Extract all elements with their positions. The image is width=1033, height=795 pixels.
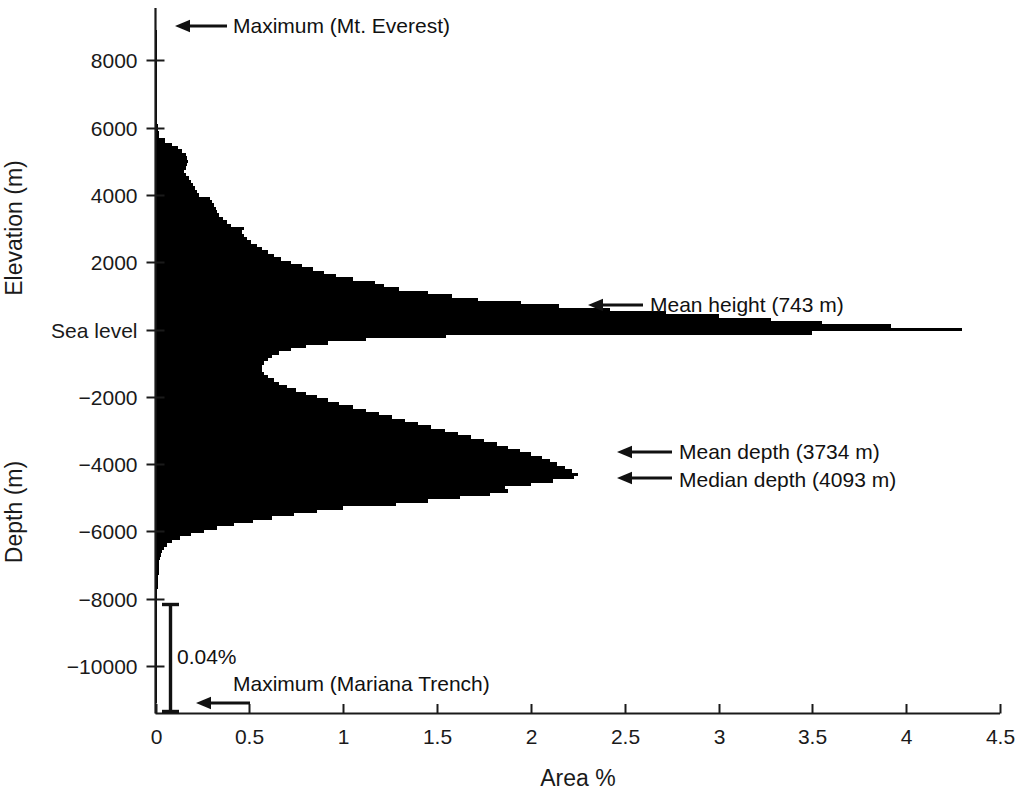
histogram-bar <box>156 395 317 398</box>
histogram-bar <box>156 281 376 284</box>
x-axis-tick-label: 2 <box>526 725 538 748</box>
histogram-bar <box>156 244 257 247</box>
histogram-bar <box>156 250 269 253</box>
histogram-bar <box>156 405 353 408</box>
histogram-bar <box>156 503 396 506</box>
x-axis-label: Area % <box>540 765 615 791</box>
histogram-bar <box>156 473 578 476</box>
histogram-bar <box>156 267 314 270</box>
histogram-bar <box>156 429 445 432</box>
histogram-bar <box>156 224 231 227</box>
annotation-label: Mean depth (3734 m) <box>679 440 880 463</box>
histogram-bar <box>156 227 244 230</box>
histogram-bar <box>156 361 265 364</box>
histogram-bar <box>156 372 265 375</box>
y-axis-tick-label: −6000 <box>79 520 138 543</box>
y-axis-tick-label: 2000 <box>91 251 138 274</box>
histogram-bar <box>156 456 543 459</box>
y-axis-tick-label: −2000 <box>79 386 138 409</box>
histogram-bar <box>156 425 432 428</box>
histogram-bar <box>156 160 189 163</box>
histogram-bar <box>156 341 329 344</box>
y-axis-tick-label: 6000 <box>91 117 138 140</box>
histogram-bar <box>156 166 186 169</box>
x-axis-tick-label: 0.5 <box>235 725 264 748</box>
histogram-bar <box>156 493 490 496</box>
annotation-label: Maximum (Mt. Everest) <box>233 14 450 37</box>
histogram-bar <box>156 220 227 223</box>
histogram-bar <box>156 358 269 361</box>
histogram-bar <box>156 183 194 186</box>
histogram-bar <box>156 190 197 193</box>
scale-bar-label: 0.04% <box>177 645 237 668</box>
histogram-bar <box>156 520 254 523</box>
histogram-bar <box>156 247 263 250</box>
x-axis-tick-label: 1.5 <box>423 725 452 748</box>
histogram-bar <box>156 422 419 425</box>
y-axis-tick-label: 8000 <box>91 49 138 72</box>
histogram-bar <box>156 146 179 149</box>
histogram-bar <box>156 321 822 324</box>
annotation-label: Maximum (Mariana Trench) <box>233 672 490 695</box>
histogram-bar <box>156 240 252 243</box>
histogram-bar <box>156 203 214 206</box>
histogram-bar <box>156 200 212 203</box>
x-axis-tick-label: 4 <box>901 725 913 748</box>
histogram-bar <box>156 375 269 378</box>
histogram-bar <box>156 207 216 210</box>
histogram-bar <box>156 388 297 391</box>
histogram-bar <box>156 489 509 492</box>
histogram-bar <box>156 385 287 388</box>
histogram-bar <box>156 439 484 442</box>
histogram-bar <box>156 149 182 152</box>
histogram-bar <box>156 513 295 516</box>
histogram-bar <box>156 143 173 146</box>
histogram-bar <box>156 304 559 307</box>
histogram-bar <box>156 217 224 220</box>
histogram-bar <box>156 257 282 260</box>
histogram-bar <box>156 462 558 465</box>
histogram-bar <box>156 180 192 183</box>
histogram-bar <box>156 271 325 274</box>
histogram-bar <box>156 170 184 173</box>
histogram-bar <box>156 533 192 536</box>
histogram-bar <box>156 324 892 327</box>
histogram-bar <box>156 479 554 482</box>
histogram-bar <box>156 156 188 159</box>
histogram-bar <box>156 516 272 519</box>
histogram-bar <box>156 466 565 469</box>
histogram-bar <box>156 277 353 280</box>
histogram-bar <box>156 365 263 368</box>
histogram-bar <box>156 543 167 546</box>
histogram-bar <box>156 442 498 445</box>
histogram-bar <box>156 355 272 358</box>
histogram-bar <box>156 449 520 452</box>
x-axis-tick-label: 4.5 <box>986 725 1015 748</box>
y-axis-label-depth: Depth (m) <box>1 461 27 563</box>
histogram-bar <box>156 382 280 385</box>
histogram-bar <box>156 294 453 297</box>
histogram-bar <box>156 197 210 200</box>
histogram-bar <box>156 415 392 418</box>
histogram-bar <box>156 254 274 257</box>
histogram-bar <box>156 351 280 354</box>
histogram-bar <box>156 459 550 462</box>
histogram-bar <box>156 499 428 502</box>
y-axis-tick-label: 4000 <box>91 184 138 207</box>
y-axis-tick-label: −8000 <box>79 588 138 611</box>
histogram-bar <box>156 469 573 472</box>
histogram-bar <box>156 314 719 317</box>
x-axis-tick-label: 3 <box>714 725 726 748</box>
x-axis-tick-label: 0 <box>151 725 163 748</box>
histogram-bar <box>156 163 188 166</box>
histogram-bar <box>156 378 274 381</box>
histogram-bar <box>156 345 306 348</box>
y-axis-tick-label: −4000 <box>79 453 138 476</box>
x-axis-tick-label: 2.5 <box>611 725 640 748</box>
histogram-bar <box>156 338 366 341</box>
histogram-bar <box>156 523 235 526</box>
histogram-bar <box>156 173 186 176</box>
histogram-bar <box>156 540 173 543</box>
histogram-bar <box>156 308 610 311</box>
histogram-bar <box>156 435 471 438</box>
